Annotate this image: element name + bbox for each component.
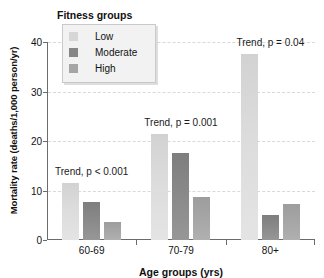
x-tick-label: 60-69 <box>79 245 105 256</box>
trend-annotation: Trend, p = 0.001 <box>144 117 217 128</box>
y-tick-label: 30 <box>31 86 42 97</box>
bar-low-6069 <box>62 183 79 240</box>
legend-item-low[interactable]: Low <box>69 31 113 42</box>
bar-high-7079 <box>193 197 210 240</box>
bar-low-80 <box>241 54 258 240</box>
bar-moderate-80 <box>262 215 279 240</box>
legend-item-label: High <box>95 63 116 74</box>
legend-item-label: Low <box>95 31 113 42</box>
legend-item-high[interactable]: High <box>69 63 116 74</box>
x-tick-label: 80+ <box>262 245 279 256</box>
x-tick-mark <box>136 240 137 245</box>
y-tick-label: 0 <box>36 235 42 246</box>
trend-annotation: Trend, p < 0.001 <box>55 166 128 177</box>
legend-swatch-icon <box>69 64 78 73</box>
legend-item-moderate[interactable]: Moderate <box>69 47 137 58</box>
y-tick-label: 20 <box>31 136 42 147</box>
bar-low-7079 <box>151 134 168 240</box>
bar-group <box>226 42 315 240</box>
bar-high-6069 <box>104 222 121 240</box>
bar-moderate-7079 <box>172 153 189 240</box>
x-tick-mark <box>226 240 227 245</box>
legend-swatch-icon <box>69 32 78 41</box>
y-tick-label: 10 <box>31 185 42 196</box>
bar-moderate-6069 <box>83 202 100 240</box>
x-tick-mark <box>314 240 315 245</box>
legend-item-label: Moderate <box>95 47 137 58</box>
legend-swatch-icon <box>69 48 78 57</box>
bar-high-80 <box>283 204 300 240</box>
x-tick-label: 70-79 <box>168 245 194 256</box>
legend-title: Fitness groups <box>57 9 132 21</box>
trend-annotation: Trend, p = 0.04 <box>236 37 304 48</box>
y-axis-title: Mortality rate (deaths/1,000 person/yr) <box>8 31 19 231</box>
legend-box: LowModerateHigh <box>62 24 156 83</box>
x-axis-title: Age groups (yrs) <box>47 266 315 278</box>
y-tick-mark <box>43 240 47 241</box>
y-tick-label: 40 <box>31 37 42 48</box>
